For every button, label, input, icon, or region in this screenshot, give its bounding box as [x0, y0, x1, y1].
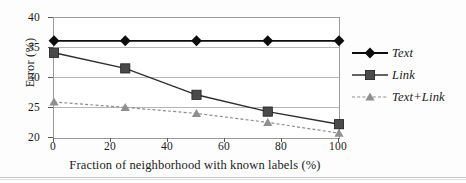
legend-sample-text-plus-link	[352, 90, 388, 104]
legend-item-text-plus-link: Text+Link	[352, 86, 464, 108]
square-marker	[192, 90, 201, 99]
triangle-marker	[192, 109, 201, 117]
legend-label-text-plus-link: Text+Link	[392, 90, 445, 105]
chart-legend: Text Link Text+Link	[352, 42, 464, 108]
series-text	[49, 35, 345, 46]
square-marker	[263, 107, 272, 116]
y-axis-title: Error (%)	[23, 23, 38, 103]
diamond-marker	[352, 46, 388, 60]
legend-label-link: Link	[392, 68, 415, 83]
triangle-marker	[352, 90, 388, 104]
y-tick-label-20: 20	[0, 132, 40, 143]
y-tick-label-25: 25	[0, 102, 40, 113]
x-tick-label-0: 0	[38, 141, 68, 152]
page-rule	[0, 177, 466, 178]
diamond-marker	[120, 35, 131, 46]
line-text-plus-link	[54, 102, 339, 133]
diamond-marker	[191, 35, 202, 46]
legend-label-text: Text	[392, 46, 413, 61]
square-marker	[49, 48, 58, 57]
diamond-marker	[334, 35, 345, 46]
legend-item-link: Link	[352, 64, 464, 86]
x-tick-label-60: 60	[209, 141, 239, 152]
chart-figure: 40 35 30 25 20 Error (%)	[0, 0, 466, 183]
plot-area	[53, 17, 340, 139]
y-tick-label-40: 40	[0, 12, 40, 23]
x-tick-label-100: 100	[323, 141, 353, 152]
legend-sample-link	[352, 68, 388, 82]
x-tick-label-40: 40	[152, 141, 182, 152]
page-rule-secondary	[0, 179, 466, 180]
x-tick-label-20: 20	[95, 141, 125, 152]
legend-sample-text	[352, 46, 388, 60]
x-axis-title: Fraction of neighborhood with known labe…	[0, 158, 390, 173]
diamond-marker	[262, 35, 273, 46]
square-marker	[334, 120, 343, 129]
series-layer	[54, 18, 339, 138]
x-tick-label-80: 80	[266, 141, 296, 152]
triangle-marker	[263, 118, 272, 126]
square-marker	[121, 64, 130, 73]
legend-item-text: Text	[352, 42, 464, 64]
square-marker	[352, 68, 388, 82]
